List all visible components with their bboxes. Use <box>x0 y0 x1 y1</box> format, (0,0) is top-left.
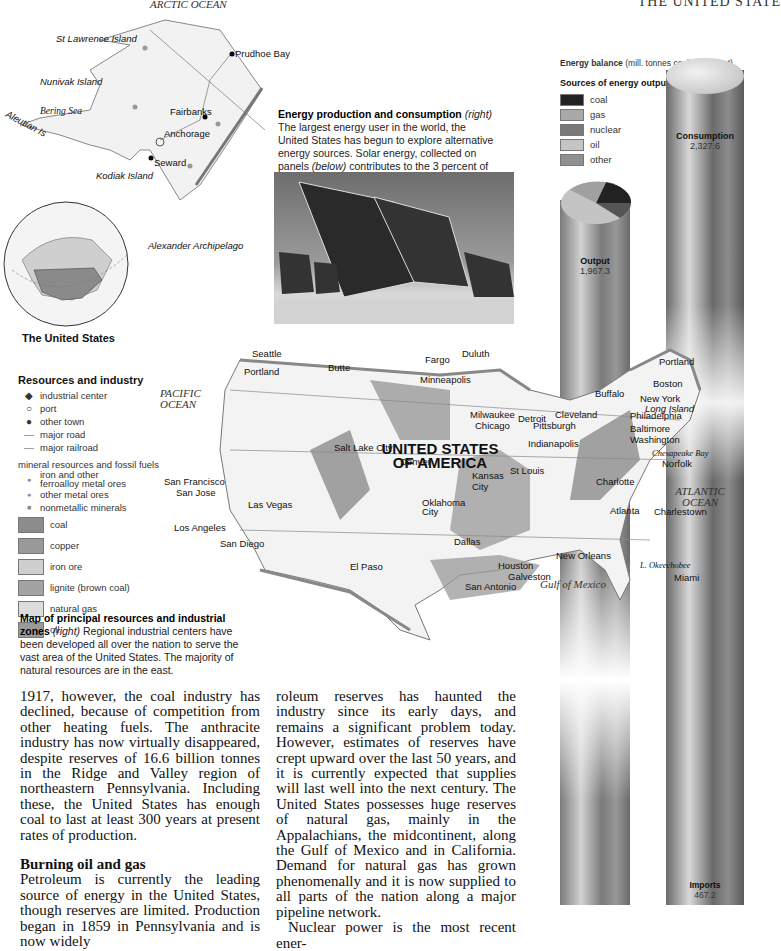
output-value: 1,967.3 <box>560 266 630 276</box>
legend-copper-area: copper <box>18 535 168 556</box>
resources-legend: Resources and industry ◆industrial cente… <box>18 374 168 640</box>
city-anchorage: Anchorage <box>164 128 210 139</box>
legend-other: other <box>560 152 669 167</box>
section-heading: Burning oil and gas <box>20 857 260 872</box>
us-resource-map: UNITED STATES OF AMERICA Seattle Portlan… <box>200 330 725 650</box>
legend-label: lignite (brown coal) <box>50 582 130 593</box>
legend-gas: gas <box>560 107 669 122</box>
city-san-francisco: San Francisco <box>164 476 225 487</box>
city-denver: Denver <box>400 456 431 467</box>
legend-label: major railroad <box>40 442 98 453</box>
running-head: THE UNITED STATE <box>638 0 781 10</box>
city-kansas: Kansas City <box>472 470 502 492</box>
output-pie-top <box>560 180 632 226</box>
resources-legend-title: Resources and industry <box>18 374 168 386</box>
legend-nonmetallic: ■nonmetallic minerals <box>18 501 168 514</box>
article-column-2: roleum reserves has haunted the industry… <box>276 689 516 951</box>
city-washington: Washington <box>630 434 680 445</box>
gulf-mexico-label: Gulf of Mexico <box>540 578 606 590</box>
city-chicago: Chicago <box>475 420 510 431</box>
consumption-title: Consumption <box>666 131 744 141</box>
city-new-orleans: New Orleans <box>556 550 611 561</box>
chesapeake-label: Chesapeake Bay <box>652 448 708 458</box>
paragraph: Nuclear power is the most recent ener- <box>276 920 516 951</box>
legend-label: nonmetallic minerals <box>40 502 127 513</box>
legend-label: iron ore <box>50 561 82 572</box>
article-column-1: 1917, however, the coal industry has dec… <box>20 689 260 950</box>
gas-swatch <box>560 109 584 121</box>
city-charlotte: Charlotte <box>596 476 635 487</box>
city-oklahoma: Oklahoma City <box>422 498 470 516</box>
city-st-louis: St Louis <box>510 465 544 476</box>
iron-ore-swatch <box>18 559 44 575</box>
city-prudhoe-bay: Prudhoe Bay <box>235 48 290 59</box>
coal-swatch <box>560 94 584 106</box>
legend-industrial-center: ◆industrial center <box>18 389 168 402</box>
city-cleveland: Cleveland <box>555 409 597 420</box>
city-san-antonio: San Antonio <box>465 581 516 592</box>
legend-label: port <box>40 403 56 414</box>
energy-balance-heading: Energy balance <box>560 58 623 68</box>
legend-label: other metal ores <box>40 489 109 500</box>
city-los-angeles: Los Angeles <box>174 522 226 533</box>
rail-line-icon: — <box>18 442 40 453</box>
locator-globe <box>2 200 130 328</box>
city-boston: Boston <box>653 378 683 389</box>
legend-label: coal <box>50 519 67 530</box>
map-caption-qualifier: (right) <box>53 625 80 637</box>
imports-label: Imports 467.2 <box>666 880 744 900</box>
okeechobee-label: L. Okeechobee <box>640 560 691 570</box>
other-swatch <box>560 154 584 166</box>
legend-major-road: —major road <box>18 428 168 441</box>
paragraph: 1917, however, the coal industry has dec… <box>20 689 260 843</box>
paragraph: roleum reserves has haunted the industry… <box>276 689 516 920</box>
legend-label: other town <box>40 416 84 427</box>
solar-panels-photo <box>274 172 514 324</box>
city-duluth: Duluth <box>462 348 489 359</box>
city-san-diego: San Diego <box>220 538 264 549</box>
mineral-dot-icon: ● <box>18 475 40 484</box>
legend-label: coal <box>590 94 607 105</box>
dot-icon: ● <box>18 416 40 427</box>
alexander-archipelago-label: Alexander Archipelago <box>148 240 203 251</box>
city-indianapolis: Indianapolis <box>528 438 579 449</box>
city-seward: Seward <box>154 157 186 168</box>
city-minneapolis: Minneapolis <box>420 374 471 385</box>
legend-other-town: ●other town <box>18 415 168 428</box>
legend-port: ○port <box>18 402 168 415</box>
oil-swatch <box>560 139 584 151</box>
legend-label: major road <box>40 429 85 440</box>
city-houston: Houston <box>498 560 533 571</box>
atlantic-ocean-label: ATLANTIC OCEAN <box>670 486 730 508</box>
map-caption: Map of principal resources and industria… <box>20 612 240 677</box>
legend-coal-area: coal <box>18 514 168 535</box>
lignite-swatch <box>18 580 44 596</box>
city-san-jose: San Jose <box>176 487 216 498</box>
city-atlanta: Atlanta <box>610 505 640 516</box>
energy-caption-title: Energy production and consumption <box>278 108 462 120</box>
city-philadelphia: Philadelphia <box>630 410 682 421</box>
legend-label: industrial center <box>40 390 107 401</box>
diamond-icon: ◆ <box>18 390 40 401</box>
energy-sources-legend: Sources of energy output coal gas nuclea… <box>560 78 669 167</box>
metal-dot-icon: ● <box>18 491 40 498</box>
city-miami: Miami <box>674 572 699 583</box>
alaska-map: ARCTIC OCEAN St Lawrence Island Nunivak … <box>0 0 270 200</box>
coal-swatch <box>18 517 44 533</box>
city-salt-lake: Salt Lake City <box>334 442 393 453</box>
legend-label: other <box>590 154 612 165</box>
city-seattle: Seattle <box>252 348 282 359</box>
city-dallas: Dallas <box>454 536 480 547</box>
legend-label: copper <box>50 540 79 551</box>
legend-other-metal: ●other metal ores <box>18 488 168 501</box>
copper-swatch <box>18 538 44 554</box>
nunivak-label: Nunivak Island <box>40 76 80 87</box>
legend-label: nuclear <box>590 124 621 135</box>
imports-value: 467.2 <box>666 890 744 900</box>
nuclear-swatch <box>560 124 584 136</box>
globe-caption: The United States <box>22 332 115 344</box>
output-label: Output 1,967.3 <box>560 256 630 276</box>
city-fairbanks: Fairbanks <box>170 106 212 117</box>
st-lawrence-label: St Lawrence Island <box>56 33 106 44</box>
road-line-icon: — <box>18 429 40 440</box>
